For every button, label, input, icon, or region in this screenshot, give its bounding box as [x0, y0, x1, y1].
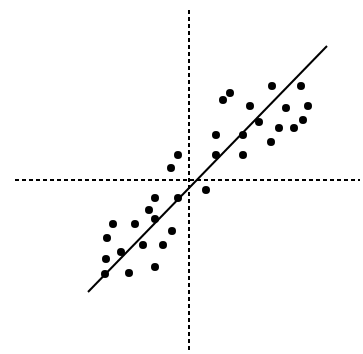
data-point [151, 215, 159, 223]
data-point [174, 194, 182, 202]
data-point [101, 270, 109, 278]
data-point [202, 186, 210, 194]
data-point [145, 206, 153, 214]
data-point [125, 269, 133, 277]
data-point [267, 138, 275, 146]
data-point [226, 89, 234, 97]
data-point [151, 263, 159, 271]
data-point [117, 248, 125, 256]
data-point [102, 255, 110, 263]
data-point [239, 131, 247, 139]
data-point [131, 220, 139, 228]
data-point [255, 118, 263, 126]
data-point [290, 124, 298, 132]
data-point [219, 96, 227, 104]
data-point [212, 131, 220, 139]
data-point [268, 82, 276, 90]
data-point [109, 220, 117, 228]
data-point [282, 104, 290, 112]
data-point [239, 151, 247, 159]
scatter-plot [0, 0, 363, 354]
data-point [151, 194, 159, 202]
data-point [139, 241, 147, 249]
data-point [159, 241, 167, 249]
data-point [297, 82, 305, 90]
trend-line [88, 46, 327, 292]
data-point [103, 234, 111, 242]
data-point [299, 116, 307, 124]
data-point [275, 124, 283, 132]
data-point [212, 151, 220, 159]
data-point [304, 102, 312, 110]
data-point [246, 102, 254, 110]
data-point [174, 151, 182, 159]
data-point [168, 227, 176, 235]
data-point [167, 164, 175, 172]
